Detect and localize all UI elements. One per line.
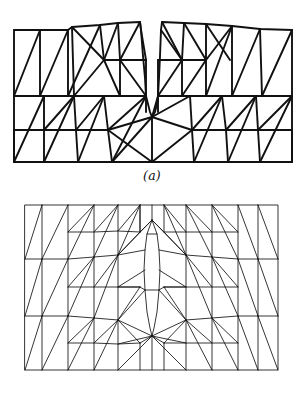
outer-edge-top-right — [161, 22, 292, 30]
inner-h-bot-left — [68, 343, 140, 344]
db-5 — [118, 205, 140, 255]
db-17 — [68, 257, 94, 316]
figure-b-mesh-drawing — [0, 196, 304, 401]
lower-band-right — [152, 117, 292, 130]
diag-d8 — [258, 96, 292, 130]
crack-outline-right — [152, 220, 160, 336]
diag-b3 — [184, 23, 206, 60]
vline-b4 — [260, 29, 262, 96]
db-1 — [25, 205, 42, 259]
vline-d2 — [192, 130, 194, 162]
diag-c5 — [76, 96, 104, 130]
diag-d3 — [194, 96, 222, 162]
db-19b — [118, 270, 145, 287]
db-3b — [68, 205, 94, 232]
band-2-right — [186, 316, 278, 320]
diag-a6 — [104, 23, 118, 60]
db-33 — [118, 320, 152, 336]
vline-c2 — [74, 96, 76, 130]
db-33b — [118, 320, 140, 343]
db-12b — [164, 205, 186, 232]
db-23 — [212, 257, 238, 316]
diag-d2 — [152, 130, 192, 162]
db-18b — [94, 255, 118, 287]
db-29b — [68, 318, 94, 343]
vline-a5 — [118, 23, 120, 60]
db-37 — [186, 320, 212, 370]
db-18 — [94, 255, 118, 318]
diag-b2 — [162, 22, 182, 60]
db-38b — [152, 336, 186, 343]
db-40b — [164, 320, 186, 343]
db-38 — [152, 336, 186, 370]
db-21 — [258, 259, 278, 316]
diag-d4 — [192, 96, 222, 130]
diag-a5 — [72, 27, 104, 60]
diag-c3 — [44, 96, 74, 130]
db-26 — [164, 287, 186, 320]
vline-d3 — [222, 96, 226, 130]
diag-d5 — [228, 96, 256, 162]
db-19d — [140, 287, 145, 290]
vline-c3 — [76, 130, 78, 162]
diag-b8 — [206, 26, 232, 96]
db-19 — [118, 290, 145, 320]
diag-b10 — [262, 30, 292, 96]
db-25d — [159, 287, 164, 290]
db-24 — [186, 255, 212, 318]
db-31 — [118, 336, 152, 370]
vline-d5 — [256, 96, 258, 130]
figure-b-container: (b) — [0, 196, 304, 401]
outer-edge-top-left — [14, 22, 141, 30]
db-27 — [25, 316, 42, 370]
vline-a4 — [100, 25, 104, 60]
vline-d1 — [190, 96, 192, 130]
db-25b — [159, 270, 186, 287]
vline-d6 — [258, 130, 260, 162]
db-4b — [94, 205, 118, 232]
db-22 — [238, 259, 258, 316]
db-24b — [186, 255, 212, 287]
db-11b — [186, 205, 212, 232]
db-10b — [212, 205, 238, 232]
diag-d6 — [226, 96, 256, 130]
db-9 — [238, 205, 258, 259]
diag-a4 — [74, 60, 104, 96]
db-16 — [42, 259, 68, 316]
db-12 — [164, 205, 186, 255]
crack-outline-left — [144, 220, 152, 336]
db-29 — [68, 318, 94, 370]
diag-a7 — [104, 60, 120, 96]
diag-a1 — [14, 30, 40, 96]
vline-c4 — [104, 96, 108, 130]
db-15 — [25, 259, 42, 316]
db-8 — [258, 205, 278, 259]
inner-h-top-left — [68, 231, 140, 232]
band-1-right — [186, 255, 278, 259]
db-40 — [152, 320, 186, 336]
figure-a-caption: (a) — [0, 168, 304, 183]
vline-c5 — [108, 130, 112, 162]
db-25 — [159, 290, 186, 320]
db-37b — [186, 320, 212, 343]
diag-a8 — [120, 22, 140, 60]
db-30 — [94, 320, 118, 370]
diag-c4 — [78, 96, 104, 162]
diag-a2 — [40, 30, 68, 96]
figure-a-mesh-drawing — [0, 0, 304, 196]
outer-rectangle-b — [25, 205, 278, 370]
db-36b — [212, 318, 238, 343]
diag-a9 — [120, 60, 146, 96]
diag-b9 — [232, 29, 260, 96]
db-23b — [212, 257, 238, 287]
diag-b6 — [158, 60, 182, 96]
db-35 — [238, 316, 258, 370]
db-34 — [258, 316, 278, 370]
db-20 — [118, 287, 140, 320]
band-2-left — [25, 316, 118, 320]
db-2 — [42, 205, 68, 259]
db-5b — [118, 205, 140, 231]
db-36 — [212, 318, 238, 370]
figure-a-container: (a) — [0, 0, 304, 196]
diag-b7 — [182, 60, 206, 96]
